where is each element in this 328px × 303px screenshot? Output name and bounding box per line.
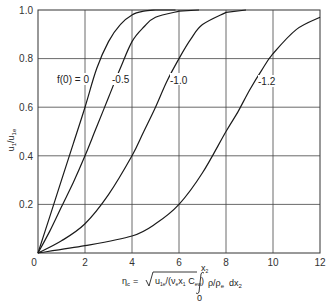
x-tick-2: 2 (82, 257, 88, 268)
curve-series-1 (38, 10, 199, 253)
y-axis-label: u1/u1e (6, 128, 17, 151)
svg-text:u1e/(νex1 Cew): u1e/(νex1 Cew) (155, 276, 204, 287)
svg-text:0: 0 (197, 293, 202, 303)
y-tick-0.2: 0.2 (19, 199, 33, 210)
x-tick-12: 12 (314, 257, 326, 268)
curve-series-0 (38, 10, 176, 253)
x-tick-8: 8 (223, 257, 229, 268)
curve-label-minus-0.5: -0.5 (112, 74, 130, 85)
x-tick-4: 4 (129, 257, 135, 268)
x-tick-6: 6 (176, 257, 182, 268)
chart-canvas: 1.0 0.8 0.6 0.4 0.2 0 2 4 6 8 10 12 f(0)… (0, 0, 328, 303)
y-tick-0.6: 0.6 (19, 102, 33, 113)
y-tick-0.8: 0.8 (19, 53, 33, 64)
svg-text:ρ/ρedx2: ρ/ρedx2 (208, 278, 243, 289)
y-tick-labels: 1.0 0.8 0.6 0.4 0.2 (19, 5, 33, 210)
svg-text:x2: x2 (201, 263, 209, 274)
y-tick-1.0: 1.0 (19, 5, 33, 16)
x-tick-0: 0 (31, 257, 37, 268)
svg-text:u1/u1e: u1/u1e (6, 128, 17, 151)
x-tick-labels: 0 2 4 6 8 10 12 (31, 257, 326, 268)
svg-text:ηc=: ηc= (122, 276, 138, 287)
curve-label-minus-1.2: -1.2 (258, 76, 276, 87)
y-tick-0.4: 0.4 (19, 151, 33, 162)
curve-label-f0-0: f(0) = 0 (57, 74, 89, 85)
curve-labels: f(0) = 0 -0.5 -1.0 -1.2 (56, 73, 276, 87)
x-gridlines (85, 10, 273, 253)
x-axis-label: ηc= u1e/(νex1 Cew) x2 0 ρ/ρedx2 (122, 263, 243, 303)
curve-series-2 (38, 10, 246, 253)
curve-label-minus-1.0: -1.0 (170, 75, 188, 86)
x-tick-10: 10 (267, 257, 279, 268)
